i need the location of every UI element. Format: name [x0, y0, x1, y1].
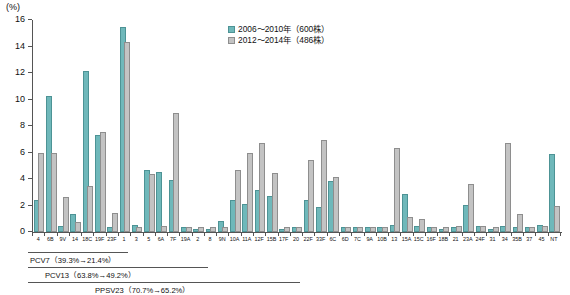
x-tick-mark: [523, 232, 524, 236]
x-tick-label: 19A: [181, 236, 191, 242]
x-tick-label: 7F: [170, 236, 176, 242]
x-tick-mark: [290, 232, 291, 236]
bar: [38, 153, 44, 232]
bar-group: [206, 20, 215, 232]
bar-group: [414, 20, 423, 232]
plot-area: 0246810121416: [32, 20, 560, 232]
y-tick-label: 8: [20, 120, 25, 130]
x-tick-label: 31: [489, 236, 495, 242]
bar-group: [537, 20, 546, 232]
x-tick-mark: [560, 232, 561, 236]
bar-group: [513, 20, 522, 232]
x-tick-label: 9V: [59, 236, 66, 242]
bar-group: [193, 20, 202, 232]
bar: [235, 170, 241, 232]
bar-group: [83, 20, 92, 232]
x-tick-mark: [364, 232, 365, 236]
bar-group: [132, 20, 141, 232]
bar-series-container: [32, 20, 560, 232]
x-tick-mark: [486, 232, 487, 236]
bar-group: [46, 20, 55, 232]
coverage-bracket-label: PPSV23（70.7%→65.2%）: [95, 284, 190, 295]
bar-group: [169, 20, 178, 232]
x-tick-mark: [143, 232, 144, 236]
x-tick-label: 9N: [219, 236, 226, 242]
coverage-bracket-line: [28, 252, 128, 253]
x-tick-mark: [216, 232, 217, 236]
bar-group: [353, 20, 362, 232]
x-tick-label: 9A: [366, 236, 373, 242]
bar-group: [304, 20, 313, 232]
bar-group: [218, 20, 227, 232]
bar-group: [439, 20, 448, 232]
y-tick-label: 16: [15, 14, 25, 24]
bar: [156, 172, 162, 232]
bar: [259, 143, 265, 232]
legend-label: 2012～2014年（486株）: [238, 35, 329, 46]
x-tick-label: 19F: [95, 236, 104, 242]
bar-group: [328, 20, 337, 232]
coverage-bracket-line: [28, 282, 300, 283]
x-tick-mark: [32, 232, 33, 236]
bar: [51, 153, 57, 232]
x-tick-mark: [44, 232, 45, 236]
bar-group: [242, 20, 251, 232]
serotype-distribution-chart: (%) 0246810121416 46B9V1418C19F23F1356A7…: [0, 0, 570, 295]
bar-group: [500, 20, 509, 232]
bar-group: [279, 20, 288, 232]
bar-group: [549, 20, 558, 232]
bar-group: [463, 20, 472, 232]
bar-group: [58, 20, 67, 232]
bar: [333, 177, 339, 232]
x-tick-label: 34: [502, 236, 508, 242]
y-tick-label: 10: [15, 94, 25, 104]
bar-group: [156, 20, 165, 232]
x-tick-mark: [118, 232, 119, 236]
x-tick-label: 21: [453, 236, 459, 242]
y-tick-label: 12: [15, 67, 25, 77]
x-tick-label: 15C: [414, 236, 424, 242]
x-tick-label: 18B: [439, 236, 449, 242]
bar: [308, 160, 314, 232]
x-tick-label: 23A: [463, 236, 473, 242]
bar-group: [316, 20, 325, 232]
x-tick-mark: [155, 232, 156, 236]
bar: [87, 186, 93, 232]
x-tick-mark: [535, 232, 536, 236]
x-tick-label: 17F: [279, 236, 288, 242]
x-tick-label: 15A: [402, 236, 412, 242]
x-axis-line: [32, 232, 562, 233]
bar-group: [451, 20, 460, 232]
x-tick-label: 24F: [476, 236, 485, 242]
x-tick-mark: [192, 232, 193, 236]
bar: [554, 206, 560, 232]
x-tick-label: 6D: [342, 236, 349, 242]
x-tick-label: 13: [391, 236, 397, 242]
x-tick-mark: [449, 232, 450, 236]
bar: [394, 148, 400, 232]
bar-group: [365, 20, 374, 232]
legend-swatch-icon: [228, 26, 235, 33]
bar-group: [95, 20, 104, 232]
coverage-bracket-line: [28, 267, 208, 268]
x-tick-label: 4: [37, 236, 40, 242]
bar-group: [181, 20, 190, 232]
bar-group: [341, 20, 350, 232]
bar-group: [377, 20, 386, 232]
bar: [321, 140, 327, 232]
y-tick-label: 0: [20, 226, 25, 236]
bar: [100, 132, 106, 232]
coverage-bracket-label: PCV13（63.8%→49.2%）: [45, 269, 136, 280]
x-tick-mark: [499, 232, 500, 236]
x-tick-label: 8: [209, 236, 212, 242]
bar: [272, 173, 278, 232]
y-tick-label: 14: [15, 41, 25, 51]
bar-group: [144, 20, 153, 232]
bar-group: [525, 20, 534, 232]
y-axis-unit-label: (%): [6, 2, 20, 12]
x-tick-label: 2: [196, 236, 199, 242]
x-tick-label: 3: [135, 236, 138, 242]
legend-label: 2006～2010年（600株）: [238, 24, 329, 35]
bar: [63, 197, 69, 232]
bar: [124, 42, 130, 232]
